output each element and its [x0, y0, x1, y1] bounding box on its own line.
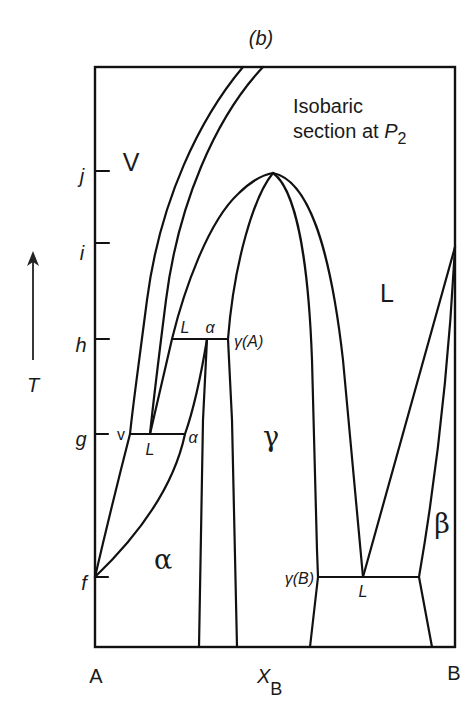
x-axis-title: XB — [256, 665, 282, 699]
dew-curve — [130, 67, 243, 434]
panel-label: (b) — [249, 27, 273, 49]
vapor-alpha-boundary — [95, 434, 130, 577]
phase-diagram: (b) j i h g f T Isobaric section at P2 — [0, 0, 473, 721]
region-label-vapor: V — [123, 148, 140, 176]
region-label-alpha: α — [154, 544, 172, 575]
point-label-gamma-b: γ(B) — [285, 570, 314, 587]
y-axis-title: T — [27, 374, 41, 396]
tick-label-g: g — [75, 428, 86, 450]
point-label-g-liquid: L — [146, 441, 155, 458]
alpha-boundary-right — [199, 339, 207, 647]
liquidus-right — [273, 173, 363, 577]
tick-label-h: h — [75, 334, 86, 356]
point-label-h-liquid: L — [181, 319, 190, 336]
x-axis-right-label: B — [447, 662, 460, 684]
point-label-h-gamma-a: γ(A) — [234, 333, 263, 350]
tick-label-i: i — [80, 242, 85, 264]
region-label-gamma: γ — [263, 421, 279, 452]
region-label-liquid: L — [380, 279, 394, 307]
plot-frame — [95, 67, 455, 647]
alpha-solidus — [95, 339, 207, 577]
point-label-h-alpha: α — [205, 319, 215, 336]
tick-label-j: j — [77, 165, 85, 187]
bubble-curve — [150, 67, 263, 434]
point-label-g-vapor: v — [117, 426, 125, 443]
point-label-g-alpha: α — [188, 429, 198, 446]
point-label-eutectic-liquid: L — [359, 583, 368, 600]
gamma-boundary-left — [228, 173, 273, 647]
region-label-beta: β — [434, 508, 450, 539]
up-arrow-icon — [27, 251, 39, 360]
x-axis-left-label: A — [89, 665, 103, 687]
liquidus-left — [150, 173, 273, 434]
beta-boundary — [419, 247, 455, 647]
annotation-line2: section at P2 — [293, 120, 407, 147]
tick-label-f: f — [81, 572, 89, 594]
annotation-line1: Isobaric — [293, 95, 363, 117]
temperature-ticks — [95, 171, 109, 577]
